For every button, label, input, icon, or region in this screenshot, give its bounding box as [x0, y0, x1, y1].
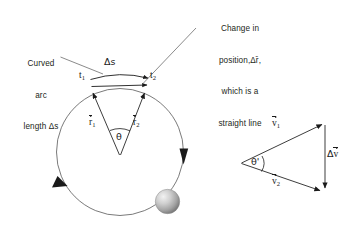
displacement-delta-r — [92, 85, 148, 87]
displacement-caption-line-4: straight line — [196, 119, 284, 130]
motion-direction-arrow-left — [52, 176, 68, 188]
arc-length-caption-line-1: Curved — [10, 59, 72, 70]
particle-ball — [155, 189, 179, 213]
displacement-caption: Change in position,Δr̄, which is a strai… — [196, 3, 284, 150]
physics-figure: Curved arc length Δs Change in position,… — [0, 0, 354, 229]
time-2-label: t2 — [150, 70, 156, 81]
arc-delta-s — [91, 75, 149, 80]
radius-1-label: r1 — [89, 117, 95, 128]
velocity-2-label: v2 — [272, 176, 280, 187]
velocity-1-label: v1 — [272, 118, 280, 129]
arc-length-caption-line-3: length Δs — [10, 122, 72, 133]
angle-theta-label: θ — [116, 131, 122, 142]
arc-length-caption-line-2: arc — [10, 91, 72, 102]
motion-direction-arrow-right — [180, 149, 189, 165]
radius-2-label: r2 — [133, 117, 139, 128]
arc-length-caption: Curved arc length Δs — [10, 38, 72, 154]
delta-velocity-label: Δv — [327, 148, 338, 159]
arc-length-symbol: Δs — [104, 56, 115, 67]
displacement-caption-line-2: position,Δr̄, — [196, 56, 284, 67]
angle-theta-prime-label: θ' — [251, 156, 259, 167]
radius-vector-r1 — [93, 93, 120, 155]
displacement-caption-line-3: which is a — [196, 87, 284, 98]
time-1-label: t1 — [79, 70, 85, 81]
displacement-caption-line-1: Change in — [196, 24, 284, 35]
